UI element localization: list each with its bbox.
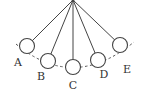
bob-e [113, 38, 128, 53]
label-a: A [13, 56, 23, 69]
label-c: C [69, 79, 77, 91]
label-b: B [37, 70, 45, 83]
label-e: E [123, 63, 131, 76]
pendulum-diagram: ABCDE [0, 0, 145, 91]
string-a [32, 0, 73, 41]
string-e [73, 0, 115, 40]
bob-c [66, 60, 81, 75]
string-d [73, 0, 95, 53]
bob-a [20, 39, 35, 54]
string-b [51, 0, 73, 54]
bob-d [91, 53, 106, 68]
label-d: D [100, 68, 109, 81]
bob-b [41, 54, 56, 69]
pendulum-strings [32, 0, 114, 60]
